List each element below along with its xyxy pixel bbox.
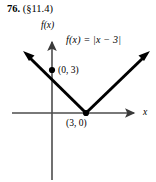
function-formula-label: f(x) = |x − 3| xyxy=(66,34,121,45)
point-label-y-intercept: (0, 3) xyxy=(58,65,79,75)
point-marker-y-intercept xyxy=(49,67,55,73)
graph-right-branch xyxy=(86,58,143,113)
point-label-vertex: (3, 0) xyxy=(66,118,87,128)
exercise-figure: 76. (§11.4) f(x) x f(x) = |x − 3| (0, 3)… xyxy=(0,0,156,182)
point-marker-vertex xyxy=(83,110,89,116)
graph-canvas xyxy=(0,0,156,182)
y-axis-label: f(x) xyxy=(41,20,54,30)
x-axis-label: x xyxy=(143,107,147,117)
